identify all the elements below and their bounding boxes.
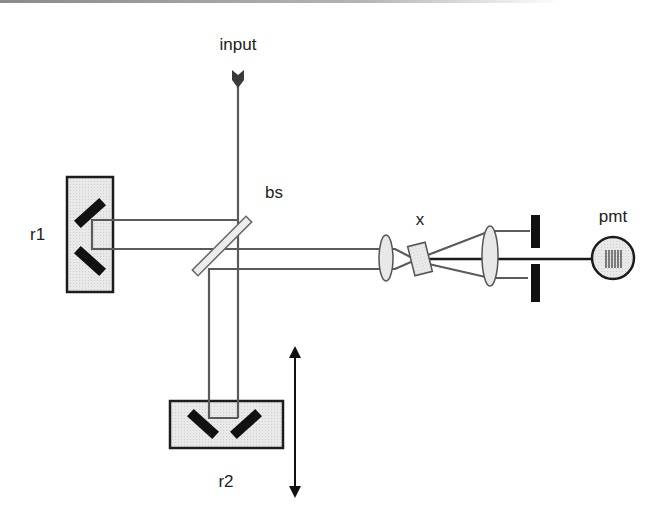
translation-arrow-icon[interactable] bbox=[289, 346, 301, 498]
nonlinear-crystal bbox=[408, 242, 433, 275]
autocorrelator-diagram: input bs r1 r2 x pmt bbox=[0, 0, 663, 523]
r2-housing bbox=[170, 401, 283, 448]
lens-focusing bbox=[379, 235, 393, 281]
retroreflector-r2 bbox=[170, 401, 283, 448]
label-pmt: pmt bbox=[599, 207, 628, 226]
beam-paths bbox=[92, 82, 612, 418]
beamsplitter bbox=[192, 216, 251, 275]
pmt-body bbox=[592, 237, 634, 279]
slit-top bbox=[531, 215, 540, 248]
diverge-beam-upper bbox=[420, 231, 530, 258]
r2-arm-beam bbox=[209, 269, 385, 418]
pmt-detector bbox=[592, 237, 634, 279]
slit-bottom bbox=[531, 264, 540, 302]
lens-collimating bbox=[482, 226, 498, 286]
input-arrow-icon bbox=[232, 70, 244, 88]
label-r2: r2 bbox=[218, 472, 233, 491]
label-r1: r1 bbox=[30, 225, 45, 244]
label-input: input bbox=[220, 35, 257, 54]
label-bs: bs bbox=[265, 183, 283, 202]
diverge-beam-lower bbox=[420, 262, 528, 278]
label-crystal: x bbox=[416, 210, 425, 229]
retroreflector-r1 bbox=[67, 177, 113, 292]
r1-housing bbox=[67, 177, 113, 292]
